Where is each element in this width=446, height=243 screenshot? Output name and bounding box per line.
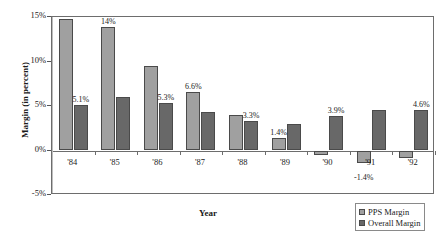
data-label: 4.6% [406,100,436,109]
x-tick-mark [137,151,138,155]
legend-item[interactable]: Overall Margin [359,217,420,228]
bar[interactable] [116,97,130,150]
data-label: -1.4% [349,173,379,182]
chart-legend: PPS MarginOverall Margin [355,203,425,231]
legend-item[interactable]: PPS Margin [359,206,420,217]
plot-area: 5.1%14%5.3%6.6%3.3%1.4%3.9%-1.4%4.6% [51,16,434,194]
bar[interactable] [314,151,328,155]
bar-chart: Margin (in percent) 15%10%5%0%-5% 5.1%14… [0,0,446,243]
data-label: 6.6% [178,82,208,91]
x-tick-label: '86 [142,157,172,167]
y-tick-label: 5% [14,100,46,109]
x-tick-mark [435,151,436,155]
x-tick-mark [392,151,393,155]
x-tick-label: '87 [185,157,215,167]
y-tick-label: -5% [14,189,46,198]
x-tick-label: '89 [270,157,300,167]
x-tick-mark [307,151,308,155]
zero-baseline [52,151,433,152]
x-tick-mark [180,151,181,155]
y-tick-mark [47,194,51,195]
x-tick-mark [350,151,351,155]
y-tick-label: 15% [14,11,46,20]
data-label: 3.9% [321,106,351,115]
legend-label: Overall Margin [368,218,420,228]
bar[interactable] [144,66,158,151]
bar[interactable] [74,105,88,150]
data-label: 14% [93,17,123,26]
legend-swatch-icon [359,209,365,215]
data-label: 5.1% [66,95,96,104]
bar[interactable] [244,121,258,150]
y-tick-label: 0% [14,145,46,154]
x-tick-label: '84 [57,157,87,167]
y-tick-label: 10% [14,56,46,65]
bar[interactable] [229,115,243,151]
bar[interactable] [329,116,343,151]
x-tick-mark [95,151,96,155]
x-axis-title: Year [178,208,238,218]
legend-swatch-icon [359,220,365,226]
x-tick-label: '91 [355,157,385,167]
data-label: 1.4% [264,128,294,137]
bar[interactable] [414,110,428,151]
bar[interactable] [186,92,200,151]
bar[interactable] [101,27,115,151]
x-tick-label: '88 [228,157,258,167]
data-label: 3.3% [236,111,266,120]
bar[interactable] [159,103,173,150]
data-label: 5.3% [151,93,181,102]
x-tick-mark [265,151,266,155]
bar[interactable] [59,19,73,151]
bar[interactable] [272,138,286,150]
x-tick-mark [222,151,223,155]
x-tick-label: '92 [398,157,428,167]
legend-label: PPS Margin [368,207,409,217]
bar[interactable] [372,110,386,150]
x-tick-label: '85 [100,157,130,167]
x-tick-label: '90 [313,157,343,167]
bar[interactable] [201,112,215,150]
